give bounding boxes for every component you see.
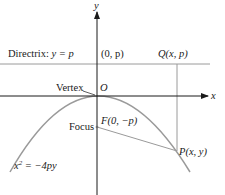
point-p-label: P(x, y) xyxy=(178,146,207,158)
directrix-point-label: (0, p) xyxy=(101,48,124,60)
directrix-equation: y = p xyxy=(50,48,73,59)
diagram-canvas: y x O Directrix: y = p (0, p) Q(x, p) Ve… xyxy=(0,0,225,195)
vertex-pointer xyxy=(83,91,95,95)
origin-label: O xyxy=(100,82,108,93)
focus-to-p-line xyxy=(97,127,177,151)
point-q-label: Q(x, p) xyxy=(158,48,188,60)
y-axis-label: y xyxy=(93,0,99,11)
directrix-label: Directrix: y = p xyxy=(8,48,74,59)
focus-label: Focus xyxy=(69,121,94,132)
directrix-label-prefix: Directrix: xyxy=(8,48,51,59)
focus-point xyxy=(96,126,99,129)
point-f-label: F(0, −p) xyxy=(100,115,138,127)
equation-rest: = −4py xyxy=(22,160,57,171)
parabola-equation: x2 = −4py xyxy=(13,159,57,171)
vertex-label: Vertex xyxy=(56,82,84,93)
parabola-diagram: y x O Directrix: y = p (0, p) Q(x, p) Ve… xyxy=(0,0,225,195)
x-axis-label: x xyxy=(210,90,216,101)
